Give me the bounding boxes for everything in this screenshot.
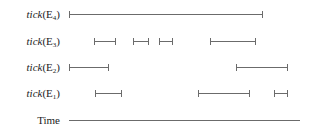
timeline-diagram bbox=[0, 0, 311, 131]
